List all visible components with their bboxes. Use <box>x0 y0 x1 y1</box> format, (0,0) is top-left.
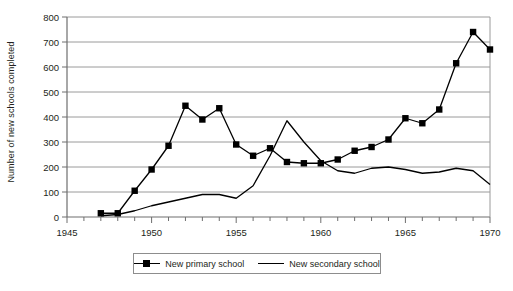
svg-text:1960: 1960 <box>310 227 331 238</box>
legend-key-plain-line-icon <box>258 259 284 268</box>
legend-label-new-secondary-school: New secondary school <box>289 259 380 269</box>
y-axis-ticks <box>62 17 67 217</box>
line-chart: Number of new schools completed 01002003… <box>0 0 513 291</box>
plot-area: 0100200300400500600700800 19451950195519… <box>0 0 513 248</box>
svg-text:0: 0 <box>54 212 59 223</box>
svg-text:1970: 1970 <box>479 227 500 238</box>
chart-legend: New primary school New secondary school <box>133 253 381 274</box>
svg-text:400: 400 <box>43 112 59 123</box>
svg-text:700: 700 <box>43 37 59 48</box>
svg-text:100: 100 <box>43 187 59 198</box>
legend-label-new-primary-school: New primary school <box>165 259 244 269</box>
svg-text:600: 600 <box>43 62 59 73</box>
legend-key-square-line-icon <box>134 259 160 268</box>
svg-text:200: 200 <box>43 162 59 173</box>
series-line-new-primary-school <box>101 32 490 213</box>
legend-item-new-primary-school: New primary school <box>134 259 244 269</box>
gridlines <box>67 17 490 192</box>
svg-text:300: 300 <box>43 137 59 148</box>
svg-text:1950: 1950 <box>141 227 162 238</box>
svg-text:500: 500 <box>43 87 59 98</box>
x-tick-labels: 194519501955196019651970 <box>56 227 500 238</box>
chart-svg: 0100200300400500600700800 19451950195519… <box>0 0 513 248</box>
y-tick-labels: 0100200300400500600700800 <box>43 12 59 223</box>
x-axis-minor-ticks <box>67 217 490 223</box>
svg-text:1965: 1965 <box>395 227 416 238</box>
legend-item-new-secondary-school: New secondary school <box>258 259 380 269</box>
svg-text:1945: 1945 <box>56 227 77 238</box>
series-line-new-secondary-school <box>101 121 490 216</box>
series-markers-new-primary-school <box>98 29 494 217</box>
svg-text:1955: 1955 <box>226 227 247 238</box>
svg-text:800: 800 <box>43 12 59 23</box>
